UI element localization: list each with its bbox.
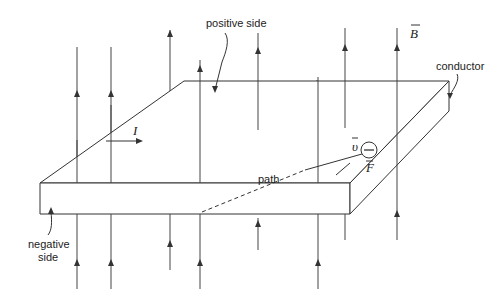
negative-side-label-line2: side (38, 251, 58, 263)
negative-side-leader (48, 212, 52, 235)
negative-side-label-line1: negative (28, 238, 70, 250)
field-arrow-icon (197, 65, 203, 72)
path-label: path (258, 173, 279, 185)
field-arrow-icon (255, 47, 261, 54)
field-arrow-icon (74, 90, 80, 97)
velocity-label: υ (352, 139, 358, 154)
field-arrow-icon (255, 220, 261, 227)
field-arrow-icon (342, 44, 348, 51)
field-arrow-icon (108, 259, 114, 266)
conductor-plate (40, 81, 449, 214)
field-arrow-icon (108, 90, 114, 97)
magnetic-field-label: B (410, 26, 418, 41)
field-arrow-icon (74, 259, 80, 266)
field-arrow-icon (197, 259, 203, 266)
conductor-leader (450, 74, 458, 95)
field-arrow-icon (394, 44, 400, 51)
positive-side-label: positive side (206, 17, 267, 29)
current-label: I (132, 123, 138, 138)
hall-effect-diagram: I path υ F B positive side conductor neg… (0, 0, 502, 306)
field-arrow-icon (167, 30, 173, 37)
electron (361, 142, 377, 158)
field-arrow-icon (167, 240, 173, 247)
force-label: F (365, 160, 375, 175)
plate-front-face (40, 183, 350, 214)
field-arrow-icon (394, 210, 400, 217)
conductor-label: conductor (436, 60, 485, 72)
field-arrow-icon (315, 259, 321, 266)
